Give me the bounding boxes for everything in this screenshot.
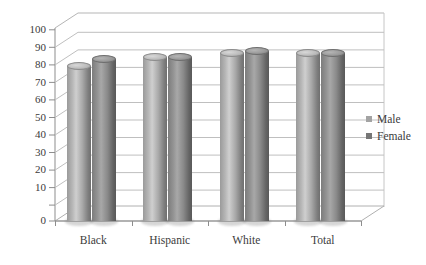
bar-top-cap bbox=[220, 49, 244, 57]
legend-item-female[interactable]: Female bbox=[366, 127, 411, 144]
bar-total-male bbox=[296, 49, 320, 221]
chart-legend: Male Female bbox=[366, 110, 411, 144]
bar-top-cap bbox=[296, 49, 320, 57]
bar-top-cap bbox=[245, 47, 269, 55]
bar-white-female bbox=[245, 47, 269, 221]
x-axis-tick bbox=[361, 221, 362, 226]
bar-hispanic-male bbox=[143, 53, 167, 221]
bar-top-cap bbox=[143, 53, 167, 61]
bar-top-cap bbox=[168, 53, 192, 61]
bar-body bbox=[92, 59, 116, 221]
legend-item-male[interactable]: Male bbox=[366, 110, 411, 127]
bar-white-male bbox=[220, 49, 244, 221]
bar-body bbox=[220, 53, 244, 221]
legend-label-female: Female bbox=[377, 130, 411, 142]
legend-swatch-male bbox=[366, 116, 372, 122]
x-axis-label-total: Total bbox=[283, 234, 363, 246]
bar-top-cap bbox=[321, 49, 345, 57]
x-axis-tick bbox=[285, 221, 286, 226]
bar-black-female bbox=[92, 55, 116, 221]
bar-hispanic-female bbox=[168, 53, 192, 221]
x-axis-tick bbox=[55, 221, 56, 226]
chart-container: 100 90 80 70 60 50 40 30 20 10 0 BlackHi… bbox=[0, 0, 426, 265]
bar-top-cap bbox=[92, 55, 116, 63]
x-axis-tick bbox=[208, 221, 209, 226]
bar-body bbox=[67, 66, 91, 221]
bar-black-male bbox=[67, 62, 91, 221]
bar-body bbox=[168, 57, 192, 221]
bar-body bbox=[321, 53, 345, 221]
x-axis-label-hispanic: Hispanic bbox=[130, 234, 210, 246]
bar-body bbox=[245, 51, 269, 221]
bar-body bbox=[296, 53, 320, 221]
bar-body bbox=[143, 57, 167, 221]
chart-plot-area bbox=[0, 0, 426, 265]
legend-label-male: Male bbox=[377, 113, 401, 125]
x-axis-label-white: White bbox=[206, 234, 286, 246]
x-axis-label-black: Black bbox=[53, 234, 133, 246]
legend-swatch-female bbox=[366, 133, 372, 139]
x-axis-tick bbox=[132, 221, 133, 226]
bar-total-female bbox=[321, 49, 345, 221]
